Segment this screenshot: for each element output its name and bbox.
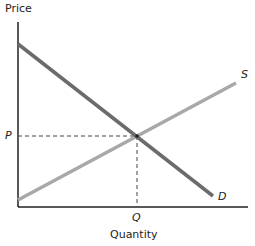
supply-label: S (241, 68, 248, 81)
y-axis-label: Price (5, 2, 32, 15)
supply-demand-diagram (0, 0, 255, 246)
demand-label: D (218, 190, 226, 203)
equilibrium-price-label: P (5, 129, 12, 142)
equilibrium-quantity-label: Q (132, 211, 141, 224)
demand-curve (18, 44, 213, 196)
supply-curve (18, 83, 236, 200)
x-axis-label: Quantity (110, 228, 158, 241)
equilibrium-point (135, 134, 139, 138)
